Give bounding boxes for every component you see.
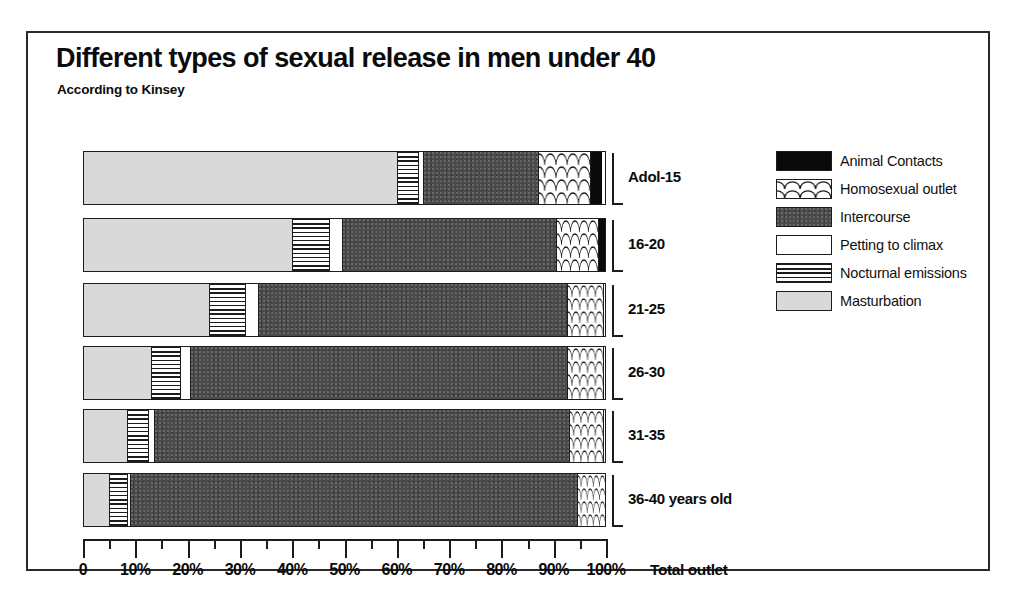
axis-tick-label: 30% bbox=[225, 561, 256, 579]
legend-item[interactable]: Petting to climax bbox=[776, 232, 1006, 257]
bar-segment-masturbation[interactable] bbox=[84, 152, 398, 204]
axis-tick-minor bbox=[423, 539, 425, 549]
stacked-bar[interactable] bbox=[83, 409, 606, 463]
axis-tick-minor bbox=[371, 539, 373, 549]
bar-segment-intercourse[interactable] bbox=[155, 410, 571, 462]
category-bracket bbox=[612, 411, 623, 463]
stacked-bar[interactable] bbox=[83, 473, 606, 527]
category-label-adol-15: Adol-15 bbox=[628, 168, 681, 185]
bar-segment-masturbation[interactable] bbox=[84, 219, 293, 271]
bar-segment-masturbation[interactable] bbox=[84, 410, 128, 462]
bar-segment-intercourse[interactable] bbox=[424, 152, 539, 204]
bar-segment-intercourse[interactable] bbox=[191, 347, 568, 399]
axis-tick-label: 40% bbox=[277, 561, 308, 579]
legend-label: Homosexual outlet bbox=[840, 181, 957, 197]
bar-segment-petting-to-climax[interactable] bbox=[330, 219, 343, 271]
stacked-bar[interactable] bbox=[83, 346, 606, 400]
legend-item[interactable]: Intercourse bbox=[776, 204, 1006, 229]
legend-item[interactable]: Nocturnal emissions bbox=[776, 260, 1006, 285]
axis-tick-minor bbox=[109, 539, 111, 549]
axis-tick-label: 100% bbox=[587, 561, 626, 579]
bar-segment-homosexual-outlet[interactable] bbox=[557, 219, 599, 271]
category-bracket bbox=[612, 153, 623, 205]
chart-legend: Animal ContactsHomosexual outletIntercou… bbox=[776, 148, 1006, 316]
bar-segment-petting-to-climax[interactable] bbox=[246, 284, 259, 336]
chart-frame: Different types of sexual release in men… bbox=[26, 31, 990, 571]
category-label-21-25: 21-25 bbox=[628, 300, 665, 317]
legend-item[interactable]: Masturbation bbox=[776, 288, 1006, 313]
bar-segment-nocturnal-emissions[interactable] bbox=[128, 410, 149, 462]
axis-tick-major bbox=[554, 539, 556, 558]
legend-swatch-horiz-lines bbox=[776, 263, 832, 283]
axis-tick-major bbox=[188, 539, 190, 558]
axis-tick-major bbox=[397, 539, 399, 558]
x-axis: Total outlet 010%20%30%40%50%60%70%80%90… bbox=[57, 533, 657, 593]
bar-segment-nocturnal-emissions[interactable] bbox=[293, 219, 330, 271]
legend-swatch-scales bbox=[776, 179, 832, 199]
stacked-bar[interactable] bbox=[83, 151, 606, 205]
bar-segment-animal-contacts[interactable] bbox=[591, 152, 601, 204]
axis-tick-major bbox=[135, 539, 137, 558]
scales-pattern-icon bbox=[777, 180, 831, 198]
bar-segment-nocturnal-emissions[interactable] bbox=[398, 152, 419, 204]
axis-tick-label: 90% bbox=[538, 561, 569, 579]
bar-segment-nocturnal-emissions[interactable] bbox=[152, 347, 181, 399]
legend-item[interactable]: Animal Contacts bbox=[776, 148, 1006, 173]
bar-segment-homosexual-outlet[interactable] bbox=[578, 474, 606, 526]
category-bracket bbox=[612, 475, 623, 527]
axis-tick-label: 50% bbox=[329, 561, 360, 579]
legend-item[interactable]: Homosexual outlet bbox=[776, 176, 1006, 201]
axis-tick-minor bbox=[528, 539, 530, 549]
category-label-36-40-years-old: 36-40 years old bbox=[628, 490, 732, 507]
stacked-bar[interactable] bbox=[83, 218, 606, 272]
bar-segment-intercourse[interactable] bbox=[343, 219, 557, 271]
legend-label: Animal Contacts bbox=[840, 153, 943, 169]
category-label-16-20: 16-20 bbox=[628, 235, 665, 252]
scales-pattern-icon bbox=[568, 347, 604, 399]
category-bracket bbox=[612, 348, 623, 400]
axis-tick-minor bbox=[475, 539, 477, 549]
axis-tick-major bbox=[83, 539, 85, 558]
bar-segment-homosexual-outlet[interactable] bbox=[568, 347, 605, 399]
scales-pattern-icon bbox=[578, 474, 606, 526]
axis-tick-label: 20% bbox=[172, 561, 203, 579]
legend-label: Nocturnal emissions bbox=[840, 265, 967, 281]
axis-tick-minor bbox=[214, 539, 216, 549]
chart-subtitle: According to Kinsey bbox=[57, 82, 184, 97]
legend-swatch-solid-black bbox=[776, 151, 832, 171]
legend-label: Petting to climax bbox=[840, 237, 943, 253]
axis-tick-major bbox=[501, 539, 503, 558]
plot-area: Adol-1516-2021-2526-3031-3536-40 years o… bbox=[57, 113, 657, 533]
category-bracket bbox=[612, 285, 623, 337]
stacked-bar[interactable] bbox=[83, 283, 606, 337]
bar-segment-animal-contacts[interactable] bbox=[599, 219, 606, 271]
bar-segment-intercourse[interactable] bbox=[131, 474, 578, 526]
category-label-26-30: 26-30 bbox=[628, 363, 665, 380]
category-bracket bbox=[612, 220, 623, 272]
chart-title: Different types of sexual release in men… bbox=[56, 43, 655, 74]
legend-label: Masturbation bbox=[840, 293, 921, 309]
axis-tick-major bbox=[345, 539, 347, 558]
axis-tick-label: 0 bbox=[79, 561, 87, 579]
bar-segment-masturbation[interactable] bbox=[84, 474, 110, 526]
bar-segment-homosexual-outlet[interactable] bbox=[568, 284, 605, 336]
bar-segment-intercourse[interactable] bbox=[259, 284, 568, 336]
bar-segment-nocturnal-emissions[interactable] bbox=[110, 474, 128, 526]
bar-segment-masturbation[interactable] bbox=[84, 347, 152, 399]
bar-segment-homosexual-outlet[interactable] bbox=[539, 152, 591, 204]
axis-tick-label: 70% bbox=[434, 561, 465, 579]
axis-tick-minor bbox=[318, 539, 320, 549]
category-label-31-35: 31-35 bbox=[628, 426, 665, 443]
bar-segment-homosexual-outlet[interactable] bbox=[570, 410, 604, 462]
axis-tick-label: 10% bbox=[120, 561, 151, 579]
scales-pattern-icon bbox=[557, 219, 598, 271]
bar-segment-nocturnal-emissions[interactable] bbox=[210, 284, 247, 336]
axis-tick-minor bbox=[266, 539, 268, 549]
bar-segment-masturbation[interactable] bbox=[84, 284, 210, 336]
scales-pattern-icon bbox=[539, 152, 590, 204]
scales-pattern-icon bbox=[568, 284, 604, 336]
legend-label: Intercourse bbox=[840, 209, 910, 225]
bar-segment-petting-to-climax[interactable] bbox=[181, 347, 191, 399]
legend-swatch-plain-white bbox=[776, 235, 832, 255]
axis-tick-minor bbox=[161, 539, 163, 549]
